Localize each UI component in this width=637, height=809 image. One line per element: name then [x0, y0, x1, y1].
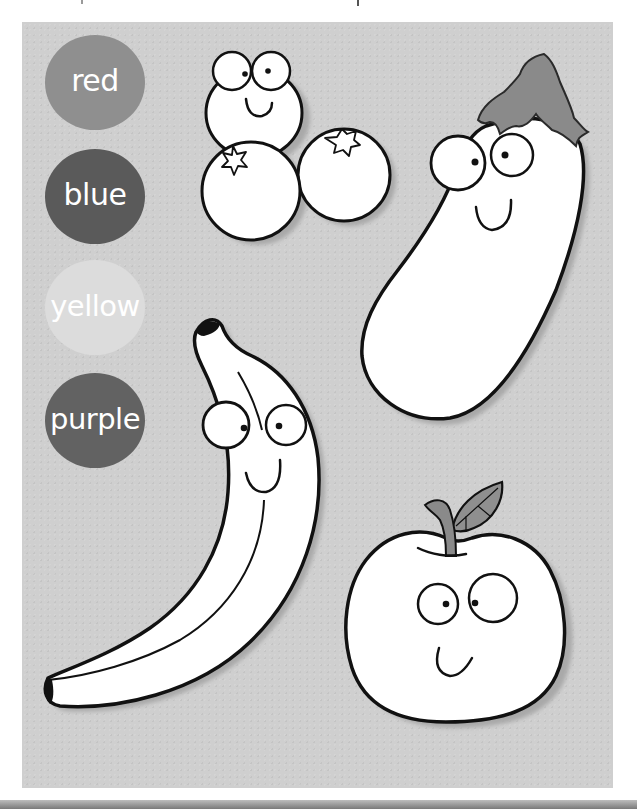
color-chip-label: red: [71, 63, 119, 98]
color-chip-yellow[interactable]: yellow: [45, 260, 145, 355]
page-mark: [81, 0, 83, 4]
color-chip-label: yellow: [50, 289, 140, 323]
color-chip-label: purple: [50, 402, 140, 436]
page-mark: [357, 0, 359, 6]
page-bottom-edge: [0, 800, 637, 809]
color-chip-purple[interactable]: purple: [45, 373, 145, 468]
color-chip-label: blue: [64, 177, 127, 212]
color-chip-blue[interactable]: blue: [45, 149, 145, 244]
color-chip-red[interactable]: red: [45, 35, 145, 130]
